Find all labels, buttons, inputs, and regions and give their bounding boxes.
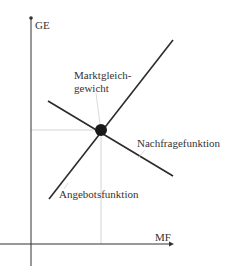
- supply-label: Angebotsfunktion: [59, 188, 139, 200]
- equilibrium-label-pointer: [96, 93, 100, 124]
- y-axis-label: GE: [35, 19, 50, 31]
- x-axis-label: MF: [155, 231, 171, 243]
- equilibrium-label-line1: Marktgleich-: [74, 69, 132, 81]
- demand-label: Nachfragefunktion: [137, 137, 221, 149]
- equilibrium-point: [95, 124, 107, 136]
- supply-curve: [49, 40, 173, 199]
- y-axis-arrow-icon: [29, 16, 33, 20]
- equilibrium-label-line2: gewicht: [74, 82, 109, 94]
- supply-demand-diagram: GE MF Marktgleich- gewicht Nachfragefunk…: [0, 0, 228, 279]
